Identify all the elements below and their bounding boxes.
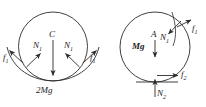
left-circle-group [7, 12, 99, 81]
left-normal-right-arrow [66, 54, 80, 68]
right-normal-bottom-label: N2 [157, 89, 166, 100]
right-friction-upper-label: f1 [192, 24, 198, 35]
right-center-label: A [151, 30, 157, 39]
physics-free-body-diagram: C 2Mg N1 N1 f1 f1 A Mg N1 f1 f2 N2 [0, 0, 206, 107]
diagram-canvas [0, 0, 206, 107]
left-friction-right-label: f1 [90, 53, 96, 64]
right-weight-label: Mg [132, 42, 145, 51]
right-friction-bottom-label: f2 [181, 70, 187, 81]
right-circle-group [120, 12, 191, 97]
left-weight-label: 2Mg [36, 86, 53, 95]
left-center-label: C [49, 30, 55, 39]
left-friction-left-label: f1 [3, 53, 9, 64]
left-normal-right-label: N1 [64, 41, 73, 52]
right-normal-upper-label: N1 [160, 33, 169, 44]
left-friction-left-arrow [10, 51, 24, 64]
left-normal-left-label: N1 [33, 41, 42, 52]
left-normal-left-arrow [27, 54, 41, 68]
